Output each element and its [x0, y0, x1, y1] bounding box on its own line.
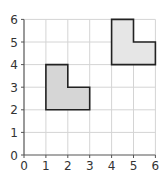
l-shape-translated [112, 19, 156, 64]
y-tick-label: 6 [10, 13, 18, 27]
x-tick-label: 3 [86, 159, 94, 173]
y-tick-label: 3 [10, 81, 18, 95]
x-tick-label: 2 [64, 159, 72, 173]
y-tick-label: 4 [10, 58, 18, 72]
y-tick-label: 1 [10, 126, 18, 140]
x-tick-label: 5 [130, 159, 138, 173]
x-tick-label: 6 [152, 159, 160, 173]
x-tick-label: 4 [108, 159, 116, 173]
coordinate-grid: 0123456 0123456 [0, 0, 168, 178]
y-tick-label: 5 [10, 36, 18, 50]
x-tick-label: 1 [42, 159, 50, 173]
y-tick-labels: 0123456 [10, 13, 18, 163]
l-shape-original [46, 65, 90, 110]
y-tick-label: 0 [10, 149, 18, 163]
x-tick-label: 0 [20, 159, 28, 173]
x-tick-labels: 0123456 [20, 159, 159, 173]
y-tick-label: 2 [10, 103, 18, 117]
